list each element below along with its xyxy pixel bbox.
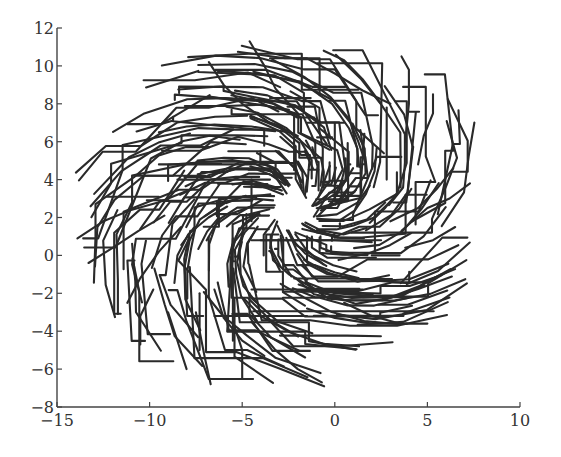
spiral-trajectory-chart: −15−10−50510 −8−6−4−2024681012	[0, 0, 561, 457]
y-tick-label: 12	[34, 19, 54, 38]
trajectory	[103, 210, 117, 317]
y-tick-label: 10	[34, 57, 54, 76]
y-tick-label: 8	[44, 95, 54, 114]
x-axis-ticks: −15−10−50510	[40, 402, 530, 430]
trajectory	[280, 336, 381, 337]
x-tick-label: 10	[510, 411, 530, 430]
x-tick-label: 5	[422, 411, 432, 430]
trajectory-lines	[76, 41, 475, 386]
y-tick-label: 6	[44, 133, 54, 152]
y-tick-label: 2	[44, 209, 54, 228]
y-tick-label: −4	[30, 322, 54, 341]
x-tick-label: 0	[330, 411, 340, 430]
y-tick-label: 0	[44, 246, 54, 265]
x-tick-label: −5	[230, 411, 254, 430]
y-tick-label: −6	[30, 360, 54, 379]
trajectory	[196, 312, 211, 384]
y-tick-label: −2	[30, 284, 54, 303]
y-tick-label: −8	[30, 398, 54, 417]
y-tick-label: 4	[44, 171, 54, 190]
trajectory	[243, 227, 257, 292]
x-tick-label: −10	[133, 411, 167, 430]
